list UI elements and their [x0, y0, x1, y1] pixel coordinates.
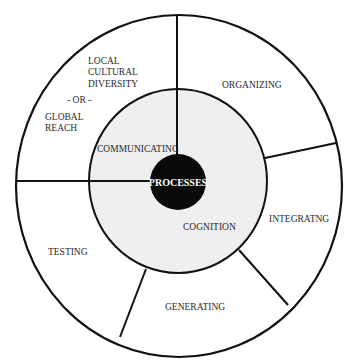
label-organizing: ORGANIZING: [222, 80, 282, 90]
label-global: GLOBAL: [45, 112, 84, 122]
processes-diagram: PROCESSES COMMUNICATING COGNITION LOCAL …: [0, 0, 353, 362]
label-integrating: INTEGRATNG: [269, 214, 329, 224]
label-local: LOCAL: [88, 56, 120, 66]
label-diversity: DIVERSITY: [88, 79, 138, 89]
center-label: PROCESSES: [149, 177, 208, 188]
label-generating: GENERATING: [165, 302, 225, 312]
label-testing: TESTING: [48, 247, 88, 257]
label-reach: REACH: [45, 123, 77, 133]
label-or: - OR -: [67, 95, 91, 105]
label-cognition: COGNITION: [183, 222, 236, 232]
label-cultural: CULTURAL: [88, 67, 138, 77]
label-communicating: COMMUNICATING: [97, 144, 179, 154]
